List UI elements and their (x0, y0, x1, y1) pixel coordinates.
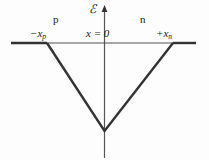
n-region-label: n (140, 14, 146, 25)
x-left-depletion-edge-label: −xp (30, 28, 46, 39)
field-axis-symbol: ℰ (89, 3, 96, 15)
x-right-depletion-edge-base: +x (156, 27, 168, 39)
pn-junction-field-figure: ℰ p n −xp x = 0 +xn (0, 0, 209, 160)
x-left-depletion-edge-subscript: p (42, 32, 46, 41)
x-right-depletion-edge-label: +xn (156, 28, 172, 39)
field-triangle-curve (47, 43, 173, 131)
x-left-depletion-edge-base: −x (30, 27, 42, 39)
y-axis-arrow-icon (102, 5, 108, 12)
figure-canvas (0, 0, 209, 160)
p-region-label: p (53, 14, 59, 25)
x-origin-label: x = 0 (86, 28, 109, 39)
x-right-depletion-edge-subscript: n (168, 32, 172, 41)
